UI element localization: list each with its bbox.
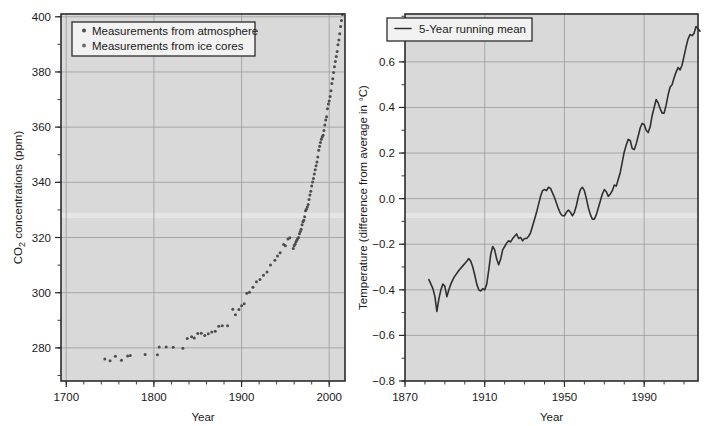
temperature-plot: 1870191019501990−0.8−0.6−0.4−0.20.00.20.… — [357, 14, 700, 423]
data-point — [334, 60, 337, 63]
climate-figure: 1700180019002000280300320340360380400Yea… — [0, 0, 709, 426]
x-tick-label: 1870 — [392, 391, 418, 403]
data-point — [186, 337, 189, 340]
data-point — [326, 107, 329, 110]
data-point — [243, 302, 246, 305]
data-point — [325, 115, 328, 118]
data-point — [258, 278, 261, 281]
y-tick-label: 340 — [32, 176, 51, 188]
data-point — [200, 332, 203, 335]
data-point — [297, 236, 300, 239]
y-tick-label: −0.4 — [372, 284, 395, 296]
x-tick-label: 1950 — [552, 391, 578, 403]
data-point — [181, 347, 184, 350]
data-point — [333, 65, 336, 68]
data-point — [302, 219, 305, 222]
y-tick-label: 360 — [32, 121, 51, 133]
legend-item[interactable]: Measurements from ice cores — [82, 40, 244, 52]
data-point — [336, 50, 339, 53]
data-point — [265, 271, 268, 274]
legend-dot-swatch — [82, 29, 86, 33]
y-axis-title: Temperature (difference from average in … — [357, 85, 369, 310]
data-point — [318, 145, 321, 148]
data-point — [315, 160, 318, 163]
data-point — [324, 118, 327, 121]
data-point — [165, 346, 168, 349]
x-tick-label: 2000 — [316, 391, 342, 403]
y-tick-label: 380 — [32, 66, 51, 78]
data-point — [234, 313, 237, 316]
data-point — [339, 25, 342, 28]
y-tick-label: 0.0 — [379, 193, 395, 205]
legend-item[interactable]: Measurements from atmosphere — [82, 25, 258, 37]
data-point — [203, 334, 206, 337]
y-tick-label: 0.4 — [379, 101, 396, 113]
data-point — [315, 164, 318, 167]
legend-label: Measurements from ice cores — [92, 40, 244, 52]
co2-plot: 1700180019002000280300320340360380400Yea… — [12, 11, 345, 423]
data-point — [288, 236, 291, 239]
legend[interactable]: Measurements from atmosphereMeasurements… — [72, 22, 258, 56]
y-tick-label: −0.6 — [372, 329, 395, 341]
y-axis-title: CO2 concentrations (ppm) — [12, 131, 27, 265]
data-point — [331, 77, 334, 80]
data-point — [301, 223, 304, 226]
data-point — [190, 335, 193, 338]
data-point — [251, 286, 254, 289]
data-point — [319, 141, 322, 144]
data-point — [144, 353, 147, 356]
data-point — [335, 55, 338, 58]
y-tick-label: 0.2 — [379, 147, 395, 159]
data-point — [317, 149, 320, 152]
temperature-chart-panel: 1870191019501990−0.8−0.6−0.4−0.20.00.20.… — [355, 0, 709, 426]
x-tick-label: 1700 — [53, 391, 79, 403]
data-point — [322, 129, 325, 132]
data-point — [337, 38, 340, 41]
data-point — [109, 359, 112, 362]
data-point — [237, 308, 240, 311]
scan-band — [405, 213, 698, 218]
data-point — [300, 228, 303, 231]
data-point — [240, 304, 243, 307]
data-point — [226, 324, 229, 327]
data-point — [231, 308, 234, 311]
temperature-chart-svg: 1870191019501990−0.8−0.6−0.4−0.20.00.20.… — [355, 0, 709, 426]
data-point — [312, 177, 315, 180]
data-point — [262, 274, 265, 277]
data-point — [309, 190, 312, 193]
y-tick-label: 400 — [32, 11, 51, 23]
data-point — [114, 355, 117, 358]
data-point — [269, 264, 272, 267]
data-point — [193, 336, 196, 339]
data-point — [329, 89, 332, 92]
data-point — [330, 82, 333, 85]
data-point — [322, 134, 325, 137]
data-point — [255, 280, 258, 283]
data-point — [196, 332, 199, 335]
data-point — [103, 357, 106, 360]
data-point — [340, 19, 343, 22]
data-point — [327, 102, 330, 105]
data-point — [217, 325, 220, 328]
y-tick-label: −0.2 — [372, 238, 395, 250]
legend-label: 5-Year running mean — [419, 23, 526, 35]
data-point — [308, 198, 311, 201]
co2-chart-panel: 1700180019002000280300320340360380400Yea… — [0, 0, 355, 426]
x-axis-title: Year — [191, 411, 214, 423]
y-tick-label: 300 — [32, 287, 51, 299]
data-point — [245, 292, 248, 295]
legend[interactable]: 5-Year running mean — [387, 18, 532, 41]
data-point — [303, 215, 306, 218]
data-point — [329, 95, 332, 98]
data-point — [273, 259, 276, 262]
data-point — [279, 251, 282, 254]
data-point — [292, 247, 295, 250]
data-point — [221, 324, 224, 327]
x-tick-label: 1900 — [229, 391, 255, 403]
data-point — [172, 346, 175, 349]
data-point — [308, 194, 311, 197]
x-tick-label: 1800 — [141, 391, 167, 403]
data-point — [313, 173, 316, 176]
data-point — [210, 330, 213, 333]
data-point — [323, 123, 326, 126]
